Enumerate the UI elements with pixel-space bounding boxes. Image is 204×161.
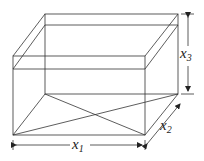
- dimension-x2: x2: [147, 104, 180, 144]
- inner-level-line: [13, 25, 178, 69]
- label-x2: x2: [159, 117, 172, 135]
- box-diagram: x1 x2 x3: [0, 0, 204, 161]
- depth-edges: [13, 14, 178, 135]
- dimension-x1: x1: [13, 136, 145, 154]
- back-face: [45, 14, 178, 94]
- dimension-x3: x3: [179, 14, 201, 94]
- front-face: [13, 56, 145, 135]
- bottom-diagonals: [13, 94, 178, 135]
